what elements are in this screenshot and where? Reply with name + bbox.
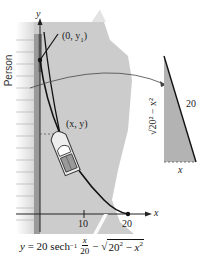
tractrix-formula: y = 20 sech−1 x20 − √202 − x2 xyxy=(20,236,144,256)
boat-point-label: (x, y) xyxy=(66,118,88,129)
x-tick-20: 20 xyxy=(122,218,132,229)
triangle-base-label: x xyxy=(178,164,182,175)
hypotenuse-label: 20 xyxy=(186,98,196,109)
x-axis-label: x xyxy=(154,207,158,218)
y-axis-label: y xyxy=(36,8,40,19)
x-tick-10: 10 xyxy=(78,218,88,229)
start-point-label: (0, y1) xyxy=(62,30,87,44)
shore-strip xyxy=(16,22,34,234)
person-label: Person xyxy=(2,44,16,96)
start-point xyxy=(38,58,42,62)
triangle-vertical-label: √20² − x² xyxy=(140,90,166,142)
diagram-canvas xyxy=(0,0,208,262)
